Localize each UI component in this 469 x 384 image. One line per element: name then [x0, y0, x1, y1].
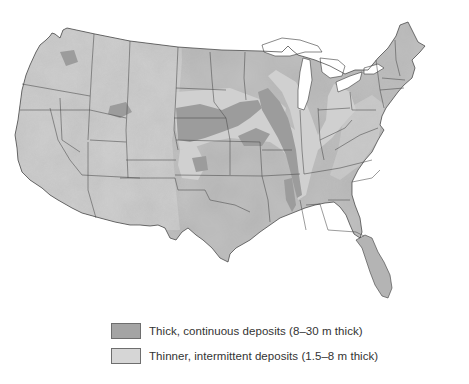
legend-label-thick: Thick, continuous deposits (8–30 m thick…: [149, 325, 363, 337]
legend-label-thin: Thinner, intermittent deposits (1.5–8 m …: [149, 350, 378, 362]
us-loess-map: [0, 0, 469, 310]
map-svg: [0, 0, 469, 310]
thick-deposits-swatch: [111, 323, 141, 339]
florida: [356, 235, 392, 298]
legend-item-thin-deposits: Thinner, intermittent deposits (1.5–8 m …: [111, 347, 378, 365]
us-landmass: [0, 0, 469, 310]
map-legend: Thick, continuous deposits (8–30 m thick…: [111, 322, 378, 372]
thin-deposits-swatch: [111, 348, 141, 364]
legend-item-thick-deposits: Thick, continuous deposits (8–30 m thick…: [111, 322, 378, 340]
